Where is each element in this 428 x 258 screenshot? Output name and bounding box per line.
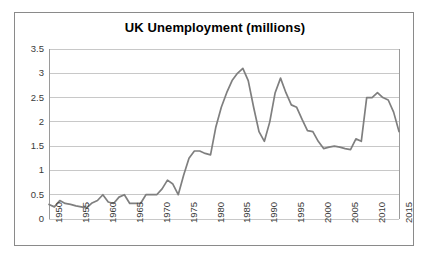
y-axis-tick-label: 1 [16, 164, 44, 175]
y-axis-tick-label: 3.5 [16, 43, 44, 54]
x-axis-tick-label: 1965 [134, 202, 145, 223]
chart-frame: UK Unemployment (millions) 00.511.522.53… [14, 12, 414, 246]
y-axis-tick-label: 3 [16, 67, 44, 78]
axis-lines [49, 49, 399, 219]
y-axis-tick-label: 2 [16, 116, 44, 127]
x-axis-tick-label: 1980 [215, 202, 226, 223]
data-series-line [49, 68, 399, 207]
x-axis-tick-label: 2005 [349, 202, 360, 223]
y-axis-tick-label: 0.5 [16, 189, 44, 200]
x-axis-tick-label: 1975 [188, 202, 199, 223]
x-axis-tick-label: 1990 [268, 202, 279, 223]
y-axis-tick-label: 0 [16, 213, 44, 224]
x-axis-tick-label: 1955 [80, 202, 91, 223]
x-axis-tick-label: 1985 [241, 202, 252, 223]
x-axis-tick-label: 2010 [376, 202, 387, 223]
x-axis-tick-label: 1950 [53, 202, 64, 223]
x-axis-tick-label: 2000 [322, 202, 333, 223]
x-axis-tick-label: 1960 [107, 202, 118, 223]
y-axis-tick-label: 1.5 [16, 140, 44, 151]
x-axis-tick-label: 1995 [295, 202, 306, 223]
y-axis-tick-label: 2.5 [16, 92, 44, 103]
gridlines [49, 49, 399, 219]
x-axis-tick-label: 1970 [161, 202, 172, 223]
x-axis-tick-label: 2015 [403, 202, 414, 223]
